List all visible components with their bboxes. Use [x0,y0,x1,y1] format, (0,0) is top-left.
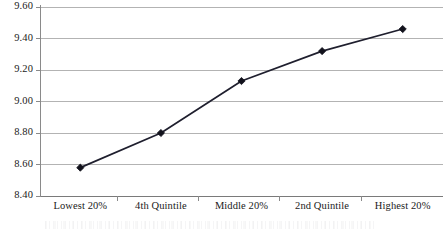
line-chart: 9.60 9.40 9.20 9.00 8.80 8.60 8.40 [0,0,445,232]
x-tick-label-fourth: 4th Quintile [121,199,202,219]
x-tick-label-second: 2nd Quintile [282,199,363,219]
data-point [399,25,406,32]
x-tick-label-lowest: Lowest 20% [40,199,121,219]
data-markers [77,25,407,171]
x-tick-label-highest: Highest 20% [362,199,443,219]
x-axis-tick-labels: Lowest 20% 4th Quintile Middle 20% 2nd Q… [40,199,443,219]
scan-artifact [45,221,375,229]
data-point [77,164,84,171]
x-tick-label-middle: Middle 20% [201,199,282,219]
data-point [319,48,326,55]
gridlines [40,7,443,165]
plot-area [0,0,445,232]
data-line [80,29,402,168]
